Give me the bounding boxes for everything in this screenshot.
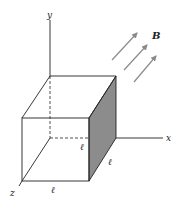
field-arrow-icon (112, 33, 137, 60)
z-axis (19, 181, 22, 186)
field-arrow-icon (134, 56, 156, 82)
y-axis-label: y (46, 10, 53, 20)
field-arrow-icon (124, 45, 147, 70)
edge-label-depth: ℓ (80, 142, 84, 152)
field-arrows (112, 33, 156, 82)
edge-label-bottom: ℓ (51, 185, 55, 195)
z-axis-label: z (9, 188, 15, 198)
shaded-face (89, 76, 116, 181)
field-label: B (151, 30, 160, 41)
cube-diagram: y x z ℓ ℓ ℓ B (0, 0, 179, 207)
x-axis-label: x (166, 133, 171, 143)
edge-label-side: ℓ (108, 157, 112, 167)
z-axis-hidden (22, 138, 50, 181)
